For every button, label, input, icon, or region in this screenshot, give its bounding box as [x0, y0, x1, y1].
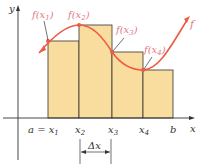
tick-x3: x3: [108, 124, 119, 137]
label-f-x2: f(x2): [67, 9, 90, 22]
point-f-x2: [77, 23, 81, 27]
y-axis-label: y: [8, 3, 15, 14]
x-axis-label: x: [190, 123, 196, 134]
arrow-right-icon: [105, 150, 110, 154]
label-curve-f: f: [189, 18, 196, 31]
rect-3: [112, 52, 143, 118]
label-f-x3: f(x3): [115, 24, 138, 37]
rectangles: [48, 25, 173, 118]
arrow-left-icon: [81, 150, 86, 154]
delta-x-label: Δx: [87, 140, 101, 151]
rect-2: [79, 25, 112, 118]
label-f-x1: f(x1): [31, 9, 54, 22]
leader-1: [44, 21, 48, 40]
tick-x2: x2: [75, 124, 86, 137]
rect-1: [48, 41, 79, 118]
x-axis-arrow-icon: [189, 116, 195, 120]
tick-x4: x4: [139, 124, 149, 137]
tick-b: b: [170, 124, 176, 135]
rect-4: [143, 70, 173, 118]
y-axis-arrow-icon: [16, 5, 20, 11]
leader-3: [113, 38, 124, 51]
tick-a-x1: a = x1: [28, 124, 59, 137]
label-f-x4: f(x4): [143, 44, 166, 57]
delta-x-bracket: Δx: [80, 139, 111, 164]
riemann-diagram: f(x1) f(x2) f(x3) f(x4) f y x a = x1 x2 …: [0, 0, 200, 166]
